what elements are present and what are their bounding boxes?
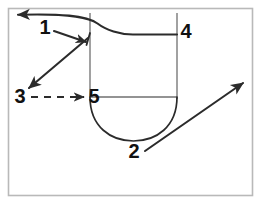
callout-label-1: 1 bbox=[39, 16, 50, 38]
callout-label-2: 2 bbox=[128, 140, 139, 162]
bowl-curve bbox=[90, 97, 177, 141]
callout-label-3: 3 bbox=[14, 85, 25, 107]
leader-2-arrow bbox=[145, 83, 243, 151]
leader-1-arrow bbox=[54, 31, 86, 42]
callout-label-5: 5 bbox=[88, 85, 99, 107]
figure-canvas: 1 2 3 4 5 bbox=[0, 0, 262, 214]
callout-label-4: 4 bbox=[180, 20, 192, 42]
line-drawing-svg: 1 2 3 4 5 bbox=[0, 0, 262, 214]
leader-diagonal-arrow bbox=[29, 38, 88, 88]
